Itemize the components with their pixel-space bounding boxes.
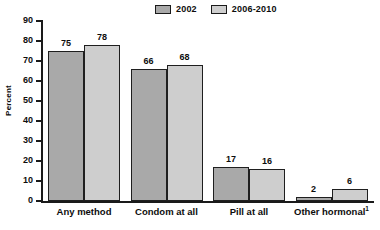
bar-2006-2010-any-method <box>84 45 120 201</box>
x-axis-label-other-hormonal: Other hormonal1 <box>272 207 380 217</box>
bar-chart: 2002 2006-2010 Percent 01020304050607080… <box>0 0 380 230</box>
footnote-marker: 1 <box>365 205 369 212</box>
bar-2002-other-hormonal <box>296 197 332 201</box>
y-axis-tick-label: 80 <box>15 36 33 45</box>
y-axis-tick-label: 20 <box>15 156 33 165</box>
y-axis-tick-label: 70 <box>15 56 33 65</box>
bar-value-label: 16 <box>243 157 291 166</box>
legend-entry-2002: 2002 <box>155 5 197 14</box>
bar-2006-2010-other-hormonal <box>332 189 368 201</box>
y-axis-tick-label: 40 <box>15 116 33 125</box>
y-axis-tick-label: 0 <box>15 196 33 205</box>
legend-label-2006-2010: 2006-2010 <box>232 5 277 14</box>
legend-entry-2006-2010: 2006-2010 <box>211 5 277 14</box>
y-axis-tick-label: 10 <box>15 176 33 185</box>
bar-value-label: 6 <box>326 177 374 186</box>
y-axis-tick-label: 50 <box>15 96 33 105</box>
legend-swatch-2002 <box>155 5 171 14</box>
legend-swatch-2006-2010 <box>211 5 227 14</box>
legend-label-2002: 2002 <box>176 5 197 14</box>
bar-value-label: 2 <box>290 185 338 194</box>
bar-value-label: 68 <box>161 53 209 62</box>
bar-2002-any-method <box>48 51 84 201</box>
y-axis-tick-label: 60 <box>15 76 33 85</box>
bar-value-label: 78 <box>78 33 126 42</box>
bar-2002-condom-at-all <box>131 69 167 201</box>
x-axis-line <box>41 201 374 203</box>
y-axis-title: Percent <box>1 0 15 200</box>
bar-2006-2010-pill-at-all <box>249 169 285 201</box>
bar-2006-2010-condom-at-all <box>167 65 203 201</box>
bar-2002-pill-at-all <box>213 167 249 201</box>
y-axis-title-text: Percent <box>4 85 13 116</box>
plot-area: 75786668171626 <box>42 21 372 201</box>
y-axis-tick-label: 30 <box>15 136 33 145</box>
chart-legend: 2002 2006-2010 <box>155 3 277 16</box>
y-axis-tick-label: 90 <box>15 16 33 25</box>
